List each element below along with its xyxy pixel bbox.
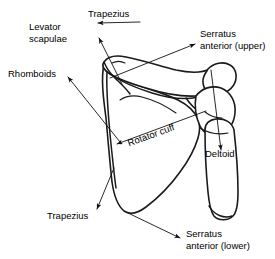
arrow-trapezius-upper [98, 22, 140, 23]
label-levator-scapulae-line1: Levator [29, 21, 61, 32]
arrow-serratus-anterior-lower [128, 213, 180, 238]
label-rhomboids: Rhomboids [8, 68, 56, 80]
label-serratus-anterior-lower: Serratus anterior (lower) [186, 228, 272, 251]
label-serratus-anterior-lower-line2: anterior (lower) [186, 240, 250, 251]
label-trapezius-upper: Trapezius [88, 8, 129, 20]
label-trapezius-lower: Trapezius [47, 210, 88, 222]
scapula-muscle-attachment-diagram: Trapezius Levator scapulae Serratus ante… [0, 0, 275, 259]
label-levator-scapulae: Levator scapulae [29, 21, 89, 44]
label-serratus-anterior-lower-line1: Serratus [186, 228, 222, 239]
arrow-trapezius-lower [97, 168, 114, 209]
label-serratus-anterior-upper-line2: anterior (upper) [200, 40, 265, 51]
label-deltoid: Deltoid [205, 148, 235, 160]
label-levator-scapulae-line2: scapulae [29, 33, 67, 44]
label-serratus-anterior-upper: Serratus anterior (upper) [200, 28, 275, 51]
label-serratus-anterior-upper-line1: Serratus [200, 28, 236, 39]
